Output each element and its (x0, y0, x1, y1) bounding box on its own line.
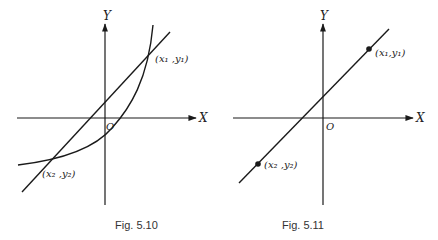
origin-label: O (106, 121, 114, 132)
x-axis-label: X (415, 111, 425, 125)
point1-label: (x₁ ,y₁) (155, 53, 189, 64)
figure-5-10: Y X O (x₁ ,y₁) (x₂ ,y₂) Fig. 5.10 (17, 9, 208, 231)
curve (18, 25, 153, 165)
point2-label: (x₂ ,y₂) (264, 159, 298, 170)
y-axis-label: Y (320, 9, 329, 23)
origin-label: O (326, 121, 334, 132)
figure-5-11: Y X O (x₁,y₁) (x₂ ,y₂) Fig. 5.11 (233, 9, 425, 231)
figure-caption: Fig. 5.10 (115, 219, 158, 231)
figure-caption: Fig. 5.11 (282, 219, 324, 231)
figures-canvas: Y X O (x₁ ,y₁) (x₂ ,y₂) Fig. 5.10 Y X O … (0, 0, 438, 240)
point2-marker (255, 161, 261, 167)
straight-line (239, 29, 389, 183)
x-axis-label: X (198, 111, 208, 125)
y-axis-label: Y (103, 9, 112, 23)
point1-marker (366, 46, 372, 52)
point2-label: (x₂ ,y₂) (42, 168, 76, 179)
point1-label: (x₁,y₁) (375, 47, 405, 58)
